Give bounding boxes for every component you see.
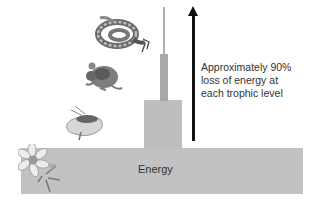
energy-loss-annotation: Approximately 90% loss of energy at each… bbox=[201, 61, 306, 100]
energy-bar-primary-consumers bbox=[144, 100, 182, 149]
flower-icon bbox=[18, 144, 64, 194]
energy-bar-tertiary-consumers bbox=[163, 7, 165, 55]
up-arrow-icon bbox=[188, 6, 198, 16]
mouse-icon bbox=[82, 60, 124, 94]
annotation-line-2: loss of energy at bbox=[201, 74, 306, 87]
insect-icon bbox=[63, 104, 107, 142]
annotation-line-1: Approximately 90% bbox=[201, 61, 306, 74]
snake-icon bbox=[95, 14, 153, 54]
up-arrow-shaft bbox=[192, 14, 195, 141]
energy-label: Energy bbox=[138, 163, 173, 175]
annotation-line-3: each trophic level bbox=[201, 87, 306, 100]
energy-bar-secondary-consumers bbox=[160, 54, 168, 101]
